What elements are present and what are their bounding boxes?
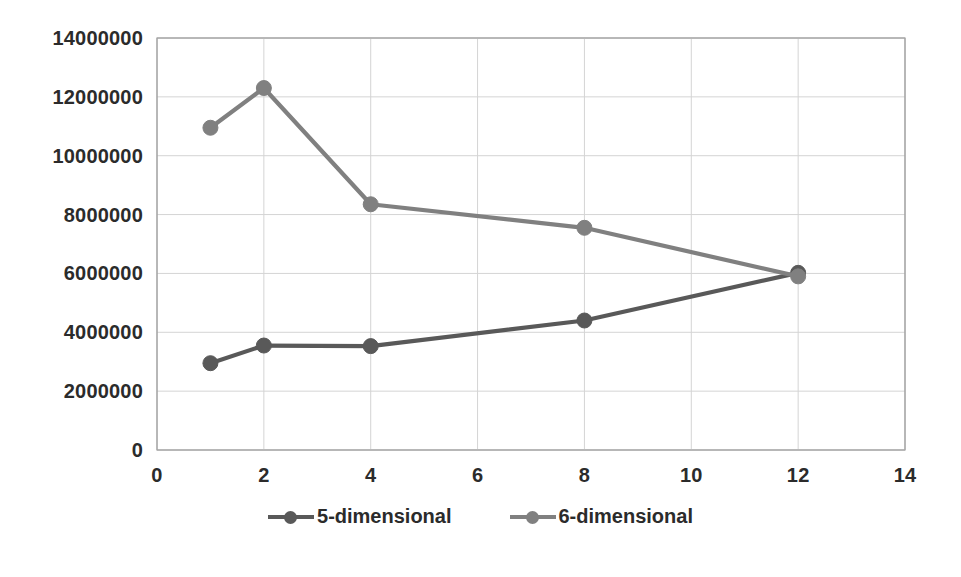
line-chart: 0200000040000006000000800000010000000120…	[0, 0, 961, 577]
data-point-marker	[203, 356, 218, 371]
y-axis-tick-label: 10000000	[52, 144, 143, 167]
data-point-marker	[203, 120, 218, 135]
series-line	[210, 273, 798, 363]
data-point-marker	[363, 339, 378, 354]
legend-marker-icon	[268, 509, 314, 525]
x-axis-tick-label: 6	[472, 464, 483, 487]
legend-item[interactable]: 6-dimensional	[510, 505, 693, 528]
data-point-marker	[577, 313, 592, 328]
series-line	[210, 88, 798, 276]
data-point-marker	[256, 338, 271, 353]
x-axis-tick-label: 10	[680, 464, 703, 487]
y-axis-tick-label: 0	[132, 439, 143, 462]
gridlines	[157, 38, 905, 450]
y-axis-tick-label: 14000000	[52, 27, 143, 50]
y-axis-tick-label: 2000000	[64, 380, 143, 403]
legend-item[interactable]: 5-dimensional	[268, 505, 451, 528]
y-axis-tick-label: 4000000	[64, 321, 143, 344]
plot-frame	[157, 38, 905, 450]
y-axis-tick-label: 12000000	[52, 85, 143, 108]
x-axis-tick-label: 0	[151, 464, 162, 487]
data-point-marker	[791, 269, 806, 284]
y-axis-tick-label: 6000000	[64, 262, 143, 285]
y-axis-tick-label: 8000000	[64, 203, 143, 226]
x-axis-tick-label: 2	[258, 464, 269, 487]
series-2	[203, 81, 806, 284]
legend-dot	[284, 511, 297, 524]
data-point-marker	[363, 197, 378, 212]
legend-dot	[526, 511, 539, 524]
chart-legend: 5-dimensional6-dimensional	[0, 505, 961, 528]
data-point-marker	[256, 81, 271, 96]
data-point-marker	[577, 220, 592, 235]
legend-label: 5-dimensional	[317, 505, 451, 528]
plot-border	[157, 38, 905, 450]
series-1	[203, 265, 806, 370]
plot-area	[0, 0, 961, 577]
x-axis-tick-label: 8	[579, 464, 590, 487]
legend-label: 6-dimensional	[559, 505, 693, 528]
x-axis-tick-label: 14	[894, 464, 917, 487]
legend-marker-icon	[510, 509, 556, 525]
x-axis-tick-label: 12	[787, 464, 810, 487]
x-axis-tick-label: 4	[365, 464, 376, 487]
